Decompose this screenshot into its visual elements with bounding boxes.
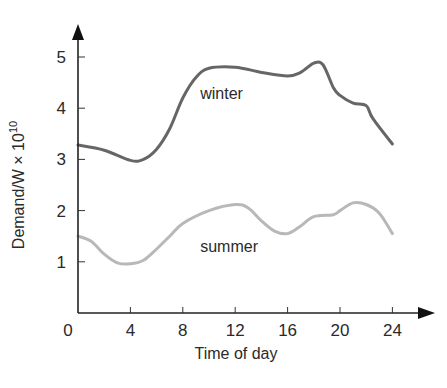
series-label-summer: summer xyxy=(200,238,258,255)
series-label-winter: winter xyxy=(199,85,243,102)
y-tick-label: 2 xyxy=(57,202,66,221)
x-tick-label: 8 xyxy=(178,321,187,340)
y-tick-label: 3 xyxy=(57,150,66,169)
y-tick-label: 1 xyxy=(57,253,66,272)
x-tick-label: 24 xyxy=(383,321,402,340)
plot-area: wintersummer xyxy=(78,62,392,264)
x-tick-label: 20 xyxy=(331,321,350,340)
demand-chart: wintersummer 0481216202412345 Time of da… xyxy=(0,0,447,388)
axes xyxy=(72,24,435,319)
y-axis-arrow-icon xyxy=(72,24,84,40)
y-axis-title-text: Demand/W × 10 xyxy=(10,133,27,249)
x-axis-title: Time of day xyxy=(195,345,278,362)
y-axis-title-exponent: 10 xyxy=(7,121,19,133)
y-axis-title: Demand/W × 1010 xyxy=(7,121,27,249)
x-tick-label: 12 xyxy=(226,321,245,340)
x-tick-label: 0 xyxy=(63,321,72,340)
y-tick-label: 5 xyxy=(57,48,66,67)
series-line-winter xyxy=(78,62,392,161)
x-tick-label: 16 xyxy=(278,321,297,340)
y-tick-label: 4 xyxy=(57,99,66,118)
x-tick-label: 4 xyxy=(126,321,135,340)
x-axis-arrow-icon xyxy=(418,307,435,319)
svg-text:Demand/W × 1010: Demand/W × 1010 xyxy=(7,121,27,249)
